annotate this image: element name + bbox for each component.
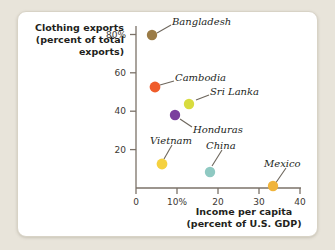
y-tick-label-40: 40	[98, 106, 126, 116]
point-label-cambodia: Cambodia	[175, 72, 226, 83]
y-tick-label-80: 80%	[98, 30, 126, 40]
point-label-china: China	[206, 140, 236, 151]
x-tick-label-0: 0	[122, 197, 150, 207]
x-axis-title: Income per capita (percent of U.S. GDP)	[180, 206, 308, 230]
x-tick-label-30: 30	[245, 197, 273, 207]
point-label-honduras: Honduras	[193, 124, 243, 135]
y-tick-label-20: 20	[98, 145, 126, 155]
y-axis-title-line3: exports)	[28, 46, 124, 58]
x-tick-label-40: 40	[286, 197, 314, 207]
x-axis-title-line1: Income per capita	[180, 206, 308, 218]
x-axis-title-line2: (percent of U.S. GDP)	[180, 218, 308, 230]
point-label-mexico: Mexico	[264, 158, 301, 169]
y-axis-title: Clothing exports (percent of total expor…	[28, 22, 124, 58]
y-tick-label-60: 60	[98, 68, 126, 78]
x-tick-label-20: 20	[204, 197, 232, 207]
point-label-vietnam: Vietnam	[150, 135, 192, 146]
x-tick-label-10: 10%	[163, 197, 191, 207]
point-label-sri-lanka: Sri Lanka	[210, 86, 259, 97]
point-label-bangladesh: Bangladesh	[172, 16, 231, 27]
